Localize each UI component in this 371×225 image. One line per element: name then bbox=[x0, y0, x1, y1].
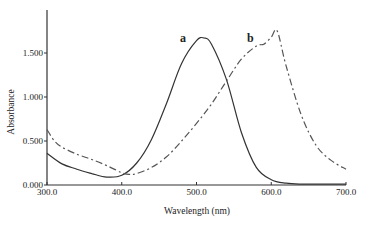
y-ticks: 0.0000.5001.0001.500 bbox=[23, 48, 47, 190]
x-tick-label: 500.0 bbox=[186, 187, 207, 197]
absorbance-chart: 0.0000.5001.0001.500 300.0400.0500.0600.… bbox=[0, 0, 371, 225]
x-tick-label: 300.0 bbox=[37, 187, 58, 197]
x-tick-label: 600.0 bbox=[261, 187, 282, 197]
series-a-label: a bbox=[180, 31, 186, 45]
x-tick-label: 400.0 bbox=[112, 187, 133, 197]
y-tick-label: 1.500 bbox=[23, 48, 44, 58]
chart-axes bbox=[47, 10, 346, 185]
data-series: ab bbox=[47, 30, 346, 185]
y-axis-title: Absorbance bbox=[6, 89, 16, 134]
series-b-label: b bbox=[247, 31, 254, 45]
series-a-line bbox=[47, 37, 346, 184]
series-b-line bbox=[47, 30, 346, 175]
x-tick-label: 700.0 bbox=[336, 187, 357, 197]
y-tick-label: 0.500 bbox=[23, 136, 44, 146]
x-axis-title: Wavelength (nm) bbox=[164, 206, 230, 217]
y-tick-label: 1.000 bbox=[23, 92, 44, 102]
